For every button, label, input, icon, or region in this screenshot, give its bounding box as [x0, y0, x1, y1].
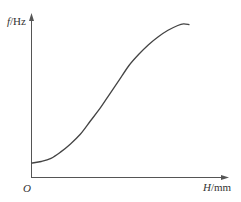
- x-axis-variable: H: [203, 181, 211, 193]
- y-axis-unit: /Hz: [10, 15, 26, 27]
- origin-label: O: [23, 183, 31, 194]
- data-curve: [32, 24, 190, 163]
- x-axis-label: H/mm: [203, 182, 231, 193]
- chart-canvas: [0, 0, 241, 202]
- y-axis-arrow-icon: [29, 13, 34, 21]
- x-axis-unit: /mm: [211, 181, 231, 193]
- x-axis-arrow-icon: [221, 175, 229, 180]
- y-axis-label: f/Hz: [7, 16, 26, 27]
